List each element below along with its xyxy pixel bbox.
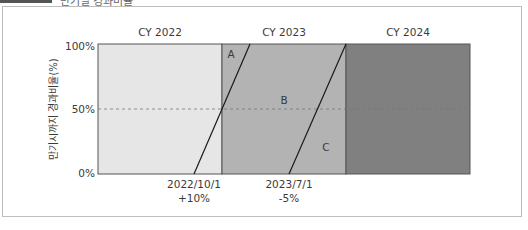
annotation-date-1: 2022/10/1 (167, 178, 221, 190)
y-axis-label: 만기시까지 경과비율(%) (47, 58, 59, 160)
diagram-canvas: CY 2022 CY 2023 CY 2024 100% 50% 0% 만기시까… (0, 0, 528, 230)
region-label-a: A (227, 48, 235, 60)
region-label-b: B (280, 94, 287, 106)
period-label-cy2024: CY 2024 (386, 26, 430, 38)
ytick-100: 100% (65, 40, 95, 52)
annotation-change-1: +10% (178, 192, 210, 204)
region-label-c: C (322, 141, 329, 153)
ytick-0: 0% (78, 167, 95, 179)
period-label-cy2022: CY 2022 (138, 26, 182, 38)
period-label-cy2023: CY 2023 (262, 26, 306, 38)
annotation-date-2: 2023/7/1 (265, 178, 312, 190)
ytick-50: 50% (72, 103, 95, 115)
annotation-change-2: -5% (279, 192, 299, 204)
